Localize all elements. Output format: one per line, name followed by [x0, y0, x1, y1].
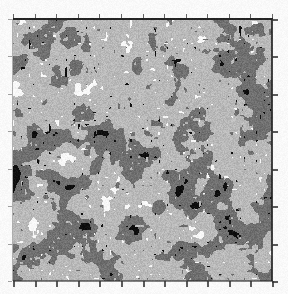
- plot-area: [13, 19, 272, 281]
- tick-mark: [272, 14, 273, 18]
- tick-mark: [272, 169, 278, 171]
- tick-mark: [229, 281, 231, 287]
- tick-mark: [35, 14, 36, 18]
- tick-mark: [8, 131, 12, 132]
- tick-mark: [229, 14, 230, 18]
- tick-mark: [272, 206, 278, 208]
- tick-mark: [56, 14, 57, 18]
- tick-mark: [99, 14, 100, 18]
- heatmap-canvas: [13, 19, 272, 281]
- tick-mark: [8, 94, 12, 95]
- tick-mark: [8, 281, 12, 282]
- figure-root: [0, 0, 288, 294]
- tick-mark: [272, 281, 278, 283]
- tick-mark: [272, 94, 278, 96]
- tick-mark: [99, 281, 101, 287]
- tick-mark: [250, 14, 251, 18]
- tick-mark: [121, 14, 122, 18]
- tick-mark: [78, 14, 79, 18]
- tick-mark: [13, 14, 14, 18]
- tick-mark: [272, 56, 278, 58]
- tick-mark: [272, 131, 278, 133]
- axis-line-top: [13, 18, 273, 20]
- tick-mark: [272, 19, 278, 21]
- axis-line-left: [12, 19, 13, 281]
- tick-mark: [143, 281, 145, 287]
- tick-mark: [272, 244, 278, 246]
- tick-mark: [8, 206, 12, 207]
- tick-mark: [207, 14, 208, 18]
- tick-mark: [8, 169, 12, 170]
- tick-mark: [8, 19, 12, 20]
- tick-mark: [56, 281, 58, 287]
- tick-mark: [207, 281, 209, 287]
- tick-mark: [164, 281, 166, 287]
- tick-mark: [164, 14, 165, 18]
- tick-mark: [8, 56, 12, 57]
- tick-mark: [143, 14, 144, 18]
- tick-mark: [8, 244, 12, 245]
- tick-mark: [250, 281, 252, 287]
- tick-mark: [121, 281, 123, 287]
- tick-mark: [13, 281, 15, 287]
- tick-mark: [78, 281, 80, 287]
- tick-mark: [186, 14, 187, 18]
- tick-mark: [186, 281, 188, 287]
- tick-mark: [35, 281, 37, 287]
